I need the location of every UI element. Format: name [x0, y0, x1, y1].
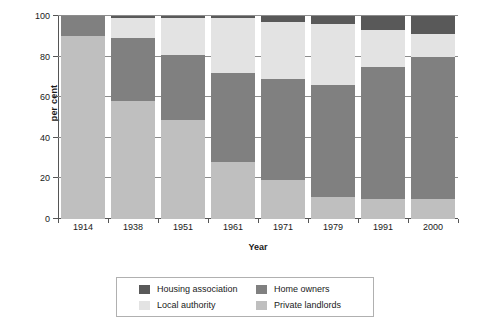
- bar-segment[interactable]: [261, 22, 306, 79]
- bar-segment[interactable]: [361, 30, 406, 67]
- bar-segment[interactable]: [161, 55, 206, 120]
- bar-segment[interactable]: [211, 18, 256, 73]
- bar-segment[interactable]: [261, 79, 306, 181]
- bar-column-1979[interactable]: [311, 16, 356, 219]
- x-tick-label-1961: 1961: [211, 222, 256, 232]
- y-tick-label: 80: [40, 52, 50, 62]
- x-tick-label-1938: 1938: [111, 222, 156, 232]
- y-tick-label: 20: [40, 173, 50, 183]
- x-tick-label-1914: 1914: [61, 222, 106, 232]
- y-tick-label: 100: [35, 11, 50, 21]
- bar-segment[interactable]: [411, 199, 456, 219]
- bar-segment[interactable]: [61, 36, 106, 219]
- bar-segment[interactable]: [211, 162, 256, 219]
- bar-column-1961[interactable]: [211, 16, 256, 219]
- legend-label: Private landlords: [274, 300, 341, 310]
- legend-swatch: [139, 285, 150, 294]
- bar-segment[interactable]: [311, 16, 356, 24]
- y-tick-label: 0: [45, 214, 50, 224]
- bar-segment[interactable]: [61, 16, 106, 36]
- y-tick-label: 60: [40, 92, 50, 102]
- legend: Housing associationHome ownersLocal auth…: [116, 277, 374, 317]
- legend-label: Home owners: [274, 284, 330, 294]
- bar-column-1914[interactable]: [61, 16, 106, 219]
- bar-segment[interactable]: [411, 16, 456, 34]
- legend-label: Local authority: [157, 300, 216, 310]
- bar-column-2000[interactable]: [411, 16, 456, 219]
- legend-item[interactable]: Home owners: [256, 284, 373, 294]
- legend-item[interactable]: Private landlords: [256, 300, 373, 310]
- bar-segment[interactable]: [411, 57, 456, 199]
- bar-segment[interactable]: [311, 197, 356, 219]
- x-tick-label-1991: 1991: [361, 222, 406, 232]
- bar-column-1971[interactable]: [261, 16, 306, 219]
- bar-segment[interactable]: [111, 18, 156, 38]
- x-tick-label-1971: 1971: [261, 222, 306, 232]
- bar-column-1951[interactable]: [161, 16, 206, 219]
- bar-segment[interactable]: [361, 67, 406, 199]
- bar-column-1991[interactable]: [361, 16, 406, 219]
- bar-segment[interactable]: [361, 199, 406, 219]
- x-tick-mark: [458, 219, 459, 223]
- bar-segment[interactable]: [261, 180, 306, 219]
- bar-group: [58, 16, 458, 219]
- x-tick-label-2000: 2000: [411, 222, 456, 232]
- bar-segment[interactable]: [311, 24, 356, 85]
- bar-column-1938[interactable]: [111, 16, 156, 219]
- legend-swatch: [256, 285, 267, 294]
- legend-swatch: [256, 301, 267, 310]
- x-axis-tick-labels: 19141938195119611971197919912000: [58, 222, 458, 232]
- bar-segment[interactable]: [111, 101, 156, 219]
- x-tick-label-1951: 1951: [161, 222, 206, 232]
- bar-segment[interactable]: [361, 16, 406, 30]
- y-tick-label: 40: [40, 133, 50, 143]
- stacked-bar-chart: per cent 020406080100 191419381951196119…: [0, 0, 480, 332]
- bar-segment[interactable]: [161, 120, 206, 219]
- bar-segment[interactable]: [111, 38, 156, 101]
- legend-label: Housing association: [157, 284, 238, 294]
- bar-segment[interactable]: [411, 34, 456, 56]
- plot-area: 020406080100: [58, 16, 458, 219]
- x-tick-label-1979: 1979: [311, 222, 356, 232]
- bar-segment[interactable]: [311, 85, 356, 197]
- legend-item[interactable]: Housing association: [139, 284, 256, 294]
- x-axis-title: Year: [58, 242, 458, 252]
- legend-item[interactable]: Local authority: [139, 300, 256, 310]
- bar-segment[interactable]: [211, 73, 256, 162]
- bar-segment[interactable]: [161, 18, 206, 55]
- legend-swatch: [139, 301, 150, 310]
